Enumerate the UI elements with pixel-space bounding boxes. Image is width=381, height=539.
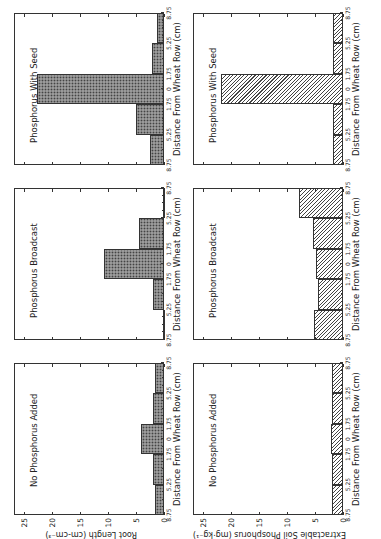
x-minor-tick xyxy=(341,286,343,287)
y-tick xyxy=(315,189,316,192)
x-minor-tick xyxy=(341,217,343,218)
x-tick-label: 8.75 xyxy=(165,158,172,171)
x-minor-tick xyxy=(341,438,343,439)
x-tick-label: 1.75 xyxy=(344,98,351,111)
x-tick-label: 8.75 xyxy=(344,508,351,521)
x-minor-tick xyxy=(341,80,343,81)
x-tick-label: 1.75 xyxy=(165,273,172,286)
x-tick-label: 8.75 xyxy=(165,508,172,521)
x-minor-tick xyxy=(341,506,343,507)
bar xyxy=(318,279,343,309)
x-minor-tick xyxy=(341,408,343,409)
x-minor-tick xyxy=(162,73,164,74)
y-tick xyxy=(136,364,137,367)
x-minor-tick xyxy=(341,187,343,188)
x-minor-tick xyxy=(162,468,164,469)
x-minor-tick xyxy=(341,423,343,424)
x-minor-tick xyxy=(162,149,164,150)
y-tick xyxy=(108,162,109,165)
x-minor-tick xyxy=(341,484,343,485)
x-minor-tick xyxy=(341,73,343,74)
x-minor-tick xyxy=(162,233,164,234)
x-minor-tick xyxy=(341,118,343,119)
x-minor-tick xyxy=(341,446,343,447)
x-minor-tick xyxy=(162,331,164,332)
x-minor-tick xyxy=(162,461,164,462)
x-minor-tick xyxy=(162,324,164,325)
y-tick xyxy=(52,14,53,17)
x-minor-tick xyxy=(341,392,343,393)
y-tick xyxy=(231,337,232,340)
x-minor-tick xyxy=(162,111,164,112)
x-tick-label: 8.75 xyxy=(165,333,172,346)
y-tick xyxy=(287,337,288,340)
x-axis-label: Distance From Wheat Row (cm) xyxy=(351,372,361,506)
x-minor-tick xyxy=(341,491,343,492)
x-tick-label: 5.25 xyxy=(165,37,172,50)
bar xyxy=(153,454,164,484)
x-minor-tick xyxy=(162,187,164,188)
bar xyxy=(332,454,343,484)
x-tick-label: 0 xyxy=(344,87,351,91)
y-tick-label: 25 xyxy=(20,518,29,532)
x-minor-tick xyxy=(162,42,164,43)
x-minor-tick xyxy=(341,149,343,150)
x-minor-tick xyxy=(341,233,343,234)
x-tick-label: 1.75 xyxy=(344,242,351,255)
y-tick xyxy=(287,189,288,192)
x-minor-tick xyxy=(341,514,343,515)
y-tick xyxy=(203,337,204,340)
x-minor-tick xyxy=(341,468,343,469)
x-minor-tick xyxy=(341,293,343,294)
y-tick xyxy=(52,189,53,192)
x-minor-tick xyxy=(162,484,164,485)
y-tick xyxy=(315,337,316,340)
x-tick-label: 1.75 xyxy=(165,448,172,461)
x-minor-tick xyxy=(341,400,343,401)
x-minor-tick xyxy=(162,27,164,28)
x-minor-tick xyxy=(162,506,164,507)
x-minor-tick xyxy=(162,141,164,142)
x-minor-tick xyxy=(341,248,343,249)
y-tick xyxy=(315,14,316,17)
x-minor-tick xyxy=(162,263,164,264)
y-tick xyxy=(231,162,232,165)
x-minor-tick xyxy=(341,430,343,431)
x-tick-label: 1.75 xyxy=(165,67,172,80)
x-tick-label: 1.75 xyxy=(344,67,351,80)
x-minor-tick xyxy=(341,453,343,454)
x-minor-tick xyxy=(341,202,343,203)
x-minor-tick xyxy=(162,514,164,515)
x-tick-label: 0 xyxy=(344,262,351,266)
x-minor-tick xyxy=(341,111,343,112)
x-tick-label: 8.75 xyxy=(344,356,351,369)
x-minor-tick xyxy=(162,408,164,409)
y-tick xyxy=(80,364,81,367)
x-tick-label: 0 xyxy=(165,87,172,91)
y-tick xyxy=(203,512,204,515)
bar xyxy=(104,249,164,279)
bar xyxy=(332,363,343,393)
x-minor-tick xyxy=(341,377,343,378)
y-tick xyxy=(203,162,204,165)
x-tick-label: 0 xyxy=(165,437,172,441)
y-tick xyxy=(231,364,232,367)
y-tick xyxy=(24,337,25,340)
x-tick-label: 1.75 xyxy=(165,98,172,111)
panel-title: No Phosphorus Added xyxy=(208,394,218,487)
x-minor-tick xyxy=(341,225,343,226)
x-minor-tick xyxy=(162,339,164,340)
y-tick xyxy=(287,162,288,165)
x-minor-tick xyxy=(341,362,343,363)
bar xyxy=(157,13,164,43)
y-tick xyxy=(315,162,316,165)
bar xyxy=(313,218,343,248)
y-axis-label-root-length: Root Length (cm-cm⁻³) xyxy=(45,530,137,539)
y-tick xyxy=(136,162,137,165)
x-minor-tick xyxy=(162,255,164,256)
x-minor-tick xyxy=(162,309,164,310)
x-minor-tick xyxy=(162,248,164,249)
x-minor-tick xyxy=(341,263,343,264)
x-minor-tick xyxy=(162,103,164,104)
x-minor-tick xyxy=(341,126,343,127)
